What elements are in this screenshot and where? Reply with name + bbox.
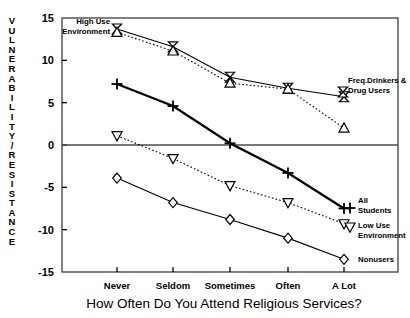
x-axis-tick-label[interactable]: Never (104, 280, 131, 291)
series-line (117, 136, 344, 224)
y-axis-tick-label: 15 (42, 12, 54, 24)
series-marker (112, 132, 122, 141)
y-axis-tick-label: 0 (48, 139, 54, 151)
y-axis-tick-label: 5 (48, 97, 54, 109)
annotation-low-use-environment: Low UseEnvironment (358, 221, 406, 240)
data-series (112, 24, 348, 102)
y-axis-tick-label: -10 (38, 224, 54, 236)
y-axis-tick-label: -15 (38, 266, 54, 278)
x-axis-tick-label[interactable]: Sometimes (205, 280, 256, 291)
y-axis-tick-label: -5 (44, 181, 54, 193)
series-marker (226, 215, 235, 225)
series-marker (225, 182, 235, 191)
annotation-high-use-environment-line2: Environment (62, 27, 110, 36)
x-axis-title: How Often Do You Attend Religious Servic… (86, 296, 361, 311)
annotation-nonusers: Nonusers (358, 255, 395, 264)
annotation-freq-drinkers-line1: Freq.Drinkers & (348, 76, 407, 85)
annotation-low-use-environment-line1: Low Use (358, 221, 391, 230)
annotation-nonusers-line1: Nonusers (358, 255, 395, 264)
annotation-marker-low-use-environment (345, 223, 355, 232)
series-marker (340, 254, 349, 264)
x-axis-tick-label[interactable]: Seldom (156, 280, 190, 291)
chart-container: VULNERABILITY/RESISTANCE High UseEnviron… (0, 0, 410, 318)
series-layer (112, 24, 350, 264)
annotation-low-use-environment-line2: Environment (358, 231, 406, 240)
annotation-freq-drinkers-line2: Drug Users (348, 86, 391, 95)
axis-labels-layer: 151050-5-10-15NeverSeldomSometimesOftenA… (38, 12, 362, 311)
annotation-all-students-line2: Students (358, 206, 392, 215)
series-marker (168, 155, 178, 164)
series-marker (284, 233, 293, 243)
x-axis-tick-label[interactable]: Often (276, 280, 301, 291)
annotation-high-use-environment-line1: High Use (76, 17, 110, 26)
series-marker (169, 198, 178, 208)
annotations-layer: High UseEnvironmentFreq.Drinkers &Drug U… (62, 17, 407, 264)
series-marker (113, 173, 122, 183)
data-series (112, 79, 350, 214)
annotation-all-students: AllStudents (358, 196, 392, 215)
annotation-high-use-environment: High UseEnvironment (62, 17, 110, 36)
series-marker (283, 199, 293, 208)
y-axis-tick-label: 10 (42, 54, 54, 66)
annotation-all-students-line1: All (358, 196, 368, 205)
series-marker (112, 27, 122, 36)
x-axis-tick-label[interactable]: A Lot (332, 280, 357, 291)
data-series (112, 27, 349, 132)
chart-plot: High UseEnvironmentFreq.Drinkers &Drug U… (0, 0, 410, 318)
series-marker (339, 123, 349, 132)
